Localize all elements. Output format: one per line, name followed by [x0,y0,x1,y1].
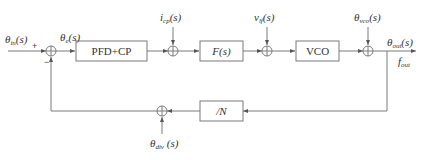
theta-div-arg: (s) [167,137,179,149]
theta-out-label: θout(s) [387,37,413,50]
f-out-label: fout [398,56,410,69]
theta-e-arg: (s) [69,31,81,43]
minus-sign: − [44,58,49,67]
i-cp-arg: (s) [170,11,182,23]
theta-in-label: θin(s) [5,34,27,47]
theta-vco-arg: (s) [369,11,381,23]
vco-label: VCO [296,46,339,57]
theta-in-arg: (s) [16,33,28,45]
theta-out-arg: (s) [401,36,413,48]
plus-sign: + [32,42,37,51]
theta-vco-sub: vco [359,17,369,25]
filter-label: F(s) [200,46,243,57]
theta-div-label: θdiv (s) [150,138,178,151]
theta-e-label: θe(s) [60,32,80,45]
f-out-sub: out [401,61,410,69]
theta-div-sub: div [155,143,164,151]
i-cp-sub: cp [163,17,170,25]
v-lf-arg: (s) [263,11,275,23]
pfd-cp-label: PFD+CP [76,46,147,57]
divider-label: /N [200,106,243,117]
theta-vco-label: θvco(s) [354,12,381,25]
i-cp-label: icp(s) [160,12,181,25]
v-lf-label: vlf(s) [254,12,274,25]
